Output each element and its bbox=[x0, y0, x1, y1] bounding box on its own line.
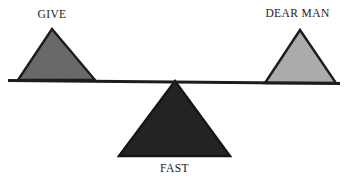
fulcrum-label: FAST bbox=[119, 163, 230, 175]
left-weight-triangle bbox=[18, 29, 95, 80]
balance-scale-diagram: GIVE DEAR MAN FAST bbox=[0, 0, 347, 184]
right-weight-label: DEAR MAN bbox=[248, 8, 347, 20]
balance-scale-graphic bbox=[0, 0, 347, 184]
left-weight-label: GIVE bbox=[0, 9, 104, 21]
right-weight-triangle bbox=[265, 30, 336, 83]
fulcrum-triangle bbox=[119, 81, 230, 156]
